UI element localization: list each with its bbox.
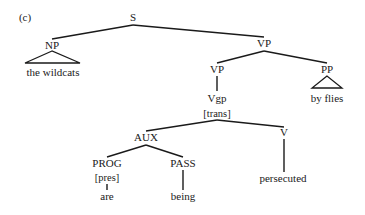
edge-s-vp1 <box>133 25 264 37</box>
edge-aux-prog <box>107 145 146 157</box>
node-category-pass: PASS <box>170 157 195 169</box>
node-word-pass-word: being <box>171 190 196 202</box>
node-feature-vgp-feat: [trans] <box>203 108 230 119</box>
node-category-prog: PROG <box>92 157 121 169</box>
edge-aux-pass <box>146 145 183 157</box>
node-feature-prog-feat: [pres] <box>95 172 120 183</box>
node-category-aux: AUX <box>134 131 158 143</box>
node-category-v: V <box>280 126 288 138</box>
node-category-s: S <box>130 11 136 23</box>
tree-labels: (c) SNPthe wildcatsVPVPPPby fliesVgp[tra… <box>19 11 343 202</box>
edge-vgp-aux <box>146 120 217 131</box>
node-word-prog-word: are <box>100 190 114 202</box>
edge-vp1-vp2 <box>217 51 264 63</box>
node-word-np-word: the wildcats <box>27 66 80 78</box>
syntax-tree-diagram: (c) SNPthe wildcatsVPVPPPby fliesVgp[tra… <box>0 0 365 215</box>
node-word-v-word: persecuted <box>259 172 307 184</box>
edge-vp1-pp <box>264 51 327 63</box>
node-category-vgp: Vgp <box>208 92 227 104</box>
node-category-np: NP <box>45 39 59 51</box>
node-category-vp1: VP <box>257 37 271 49</box>
panel-label: (c) <box>19 11 32 24</box>
edge-s-np <box>52 25 133 39</box>
np-triangle-icon <box>25 51 80 63</box>
node-category-vp2: VP <box>210 63 224 75</box>
node-category-pp: PP <box>321 63 333 75</box>
edge-vgp-v <box>217 120 284 127</box>
pp-triangle-icon <box>312 76 342 88</box>
node-word-pp-word: by flies <box>311 92 344 104</box>
